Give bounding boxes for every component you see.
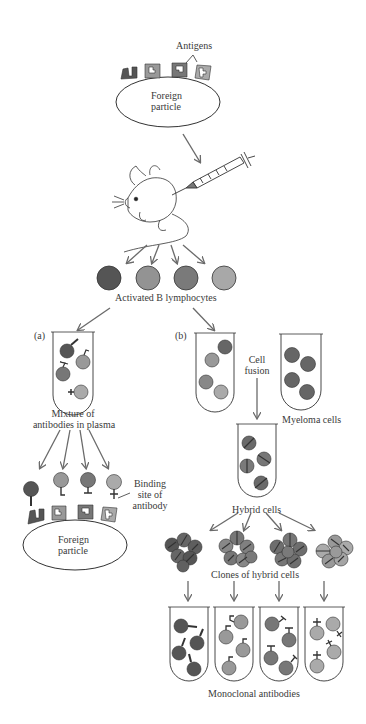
monoclonal-tube-3 bbox=[258, 607, 300, 681]
activated-b-label: Activated B lymphocytes bbox=[115, 292, 217, 303]
tube-myeloma bbox=[279, 334, 323, 410]
foreign-particle-top-line1: Foreign bbox=[151, 90, 182, 101]
antigen-4 bbox=[195, 65, 211, 80]
binding-site-line2: site of bbox=[131, 489, 169, 500]
panel-b-label: (b) bbox=[175, 330, 187, 341]
binding-site-line3: antibody bbox=[131, 500, 169, 511]
tube-b-lymphocytes bbox=[194, 333, 236, 412]
tube-hybrid bbox=[236, 424, 278, 497]
panel-a-label: (a) bbox=[34, 330, 45, 341]
cell-fusion-line2: fusion bbox=[243, 365, 271, 376]
diagram-canvas bbox=[0, 0, 366, 724]
foreign-particle-top-line2: particle bbox=[151, 101, 181, 112]
foreign-particle-bottom-line1: Foreign bbox=[58, 534, 89, 545]
cell-fusion-line1: Cell bbox=[247, 354, 267, 365]
foreign-particle-bottom-line2: particle bbox=[58, 545, 88, 556]
monoclonal-tubes bbox=[168, 607, 345, 681]
binding-site-line1: Binding bbox=[131, 478, 169, 489]
mixture-label-line2: antibodies in plasma bbox=[24, 419, 124, 430]
antigen-2 bbox=[145, 64, 160, 78]
clone-4 bbox=[316, 535, 353, 568]
hybrid-cells-label: Hybrid cells bbox=[232, 504, 281, 515]
clone-1 bbox=[165, 533, 202, 572]
antigen-1 bbox=[121, 67, 137, 79]
antibodies-binding bbox=[24, 473, 131, 507]
monoclonal-tube-1 bbox=[168, 607, 210, 681]
mixture-label-line1: Mixture of bbox=[46, 408, 100, 419]
antigens-label: Antigens bbox=[176, 40, 212, 51]
mouse-icon bbox=[112, 166, 188, 252]
syringe-icon bbox=[172, 152, 255, 195]
antigen-3 bbox=[172, 63, 187, 77]
monoclonal-tube-2 bbox=[213, 607, 255, 681]
monoclonal-tube-4 bbox=[303, 607, 345, 681]
clone-2 bbox=[219, 531, 257, 567]
clone-3 bbox=[270, 533, 307, 568]
tube-a bbox=[51, 332, 95, 415]
arrows-to-lymphocytes bbox=[127, 245, 204, 263]
clones-label: Clones of hybrid cells bbox=[211, 569, 299, 580]
monoclonal-label: Monoclonal antibodies bbox=[208, 688, 300, 699]
activated-b-lymphocytes bbox=[97, 266, 236, 290]
clones-hybrid-cells bbox=[165, 531, 353, 572]
myeloma-label: Myeloma cells bbox=[282, 414, 341, 425]
